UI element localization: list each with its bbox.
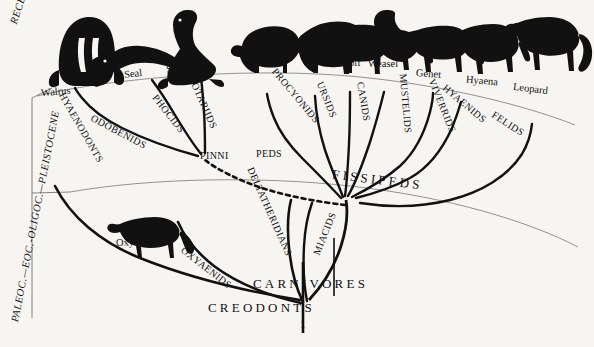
group-label-peds: PEDS [256, 148, 282, 159]
group-label-carnivores: CARNIVORES [253, 276, 368, 292]
group-label-creodonts: CREODONTS [208, 300, 315, 316]
animal-label-wolf: Wolf [340, 57, 361, 68]
animal-label-seal: Seal [123, 67, 142, 80]
animal-label-bear: Bear [306, 55, 326, 66]
phylogenetic-tree-figure: RECENT PALEOC.—EOC.-OLIGOC.—PLEISTOCENE … [0, 0, 594, 347]
animal-label-weasel: Weasel [368, 58, 398, 69]
group-label-pinni: PINNI [200, 150, 229, 161]
tree-drawing [0, 0, 594, 347]
pinnipeds-dashed-branch [205, 160, 345, 205]
root-tick-label: 1 [300, 318, 306, 330]
